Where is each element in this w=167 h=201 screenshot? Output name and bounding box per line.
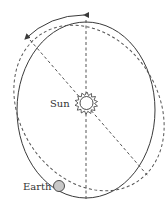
- earth-icon: [54, 181, 65, 192]
- precession-arrow: [25, 15, 84, 39]
- orbit-precession-diagram: Sun Earth: [0, 0, 167, 201]
- sun-label: Sun: [50, 98, 70, 109]
- earth-label: Earth: [23, 181, 52, 192]
